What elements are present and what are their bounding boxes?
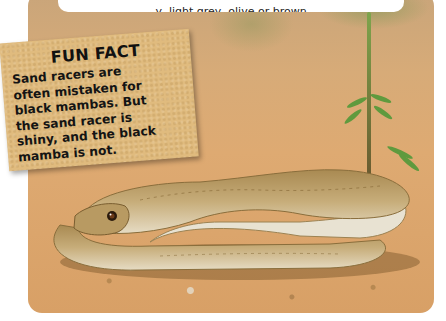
caption-box: ...y, light grey, olive or brown... <box>58 0 404 12</box>
fun-fact-body: Sand racers are often mistaken for black… <box>12 59 189 165</box>
caption-text: ...y, light grey, olive or brown... <box>145 6 317 12</box>
fun-fact-card: FUN FACT Sand racers are often mistaken … <box>0 29 199 172</box>
